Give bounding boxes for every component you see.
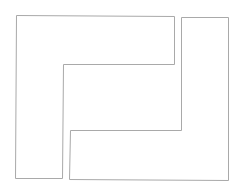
diagram-canvas — [0, 0, 243, 193]
